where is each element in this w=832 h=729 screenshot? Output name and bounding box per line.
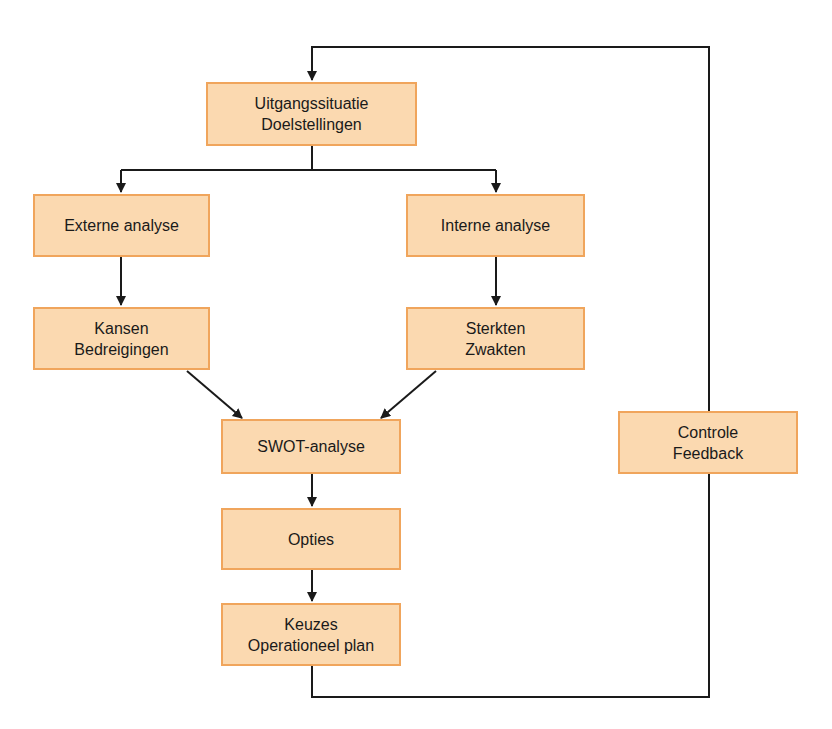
- node-external-analysis: Externe analyse: [33, 194, 210, 257]
- node-label: Uitgangssituatie: [255, 93, 369, 114]
- node-opportunities-threats: KansenBedreigingen: [33, 307, 210, 370]
- node-strengths-weaknesses: SterktenZwakten: [406, 307, 585, 370]
- node-label: Keuzes: [248, 614, 374, 635]
- node-swot-analysis: SWOT-analyse: [221, 419, 401, 474]
- node-start: UitgangssituatieDoelstellingen: [206, 82, 417, 146]
- node-label: Zwakten: [465, 339, 525, 360]
- node-choices-operational-plan: KeuzesOperationeel plan: [221, 603, 401, 666]
- node-label: Kansen: [74, 318, 168, 339]
- node-options: Opties: [221, 508, 401, 570]
- node-internal-analysis: Interne analyse: [406, 194, 585, 257]
- node-label: SWOT-analyse: [257, 436, 365, 457]
- node-control-feedback: ControleFeedback: [618, 411, 798, 474]
- node-label: Bedreigingen: [74, 339, 168, 360]
- node-label: Doelstellingen: [255, 114, 369, 135]
- node-label: Opties: [288, 529, 334, 550]
- node-label: Feedback: [673, 443, 743, 464]
- node-label: Sterkten: [465, 318, 525, 339]
- node-label: Controle: [673, 422, 743, 443]
- node-label: Interne analyse: [441, 215, 550, 236]
- node-label: Externe analyse: [64, 215, 179, 236]
- node-label: Operationeel plan: [248, 635, 374, 656]
